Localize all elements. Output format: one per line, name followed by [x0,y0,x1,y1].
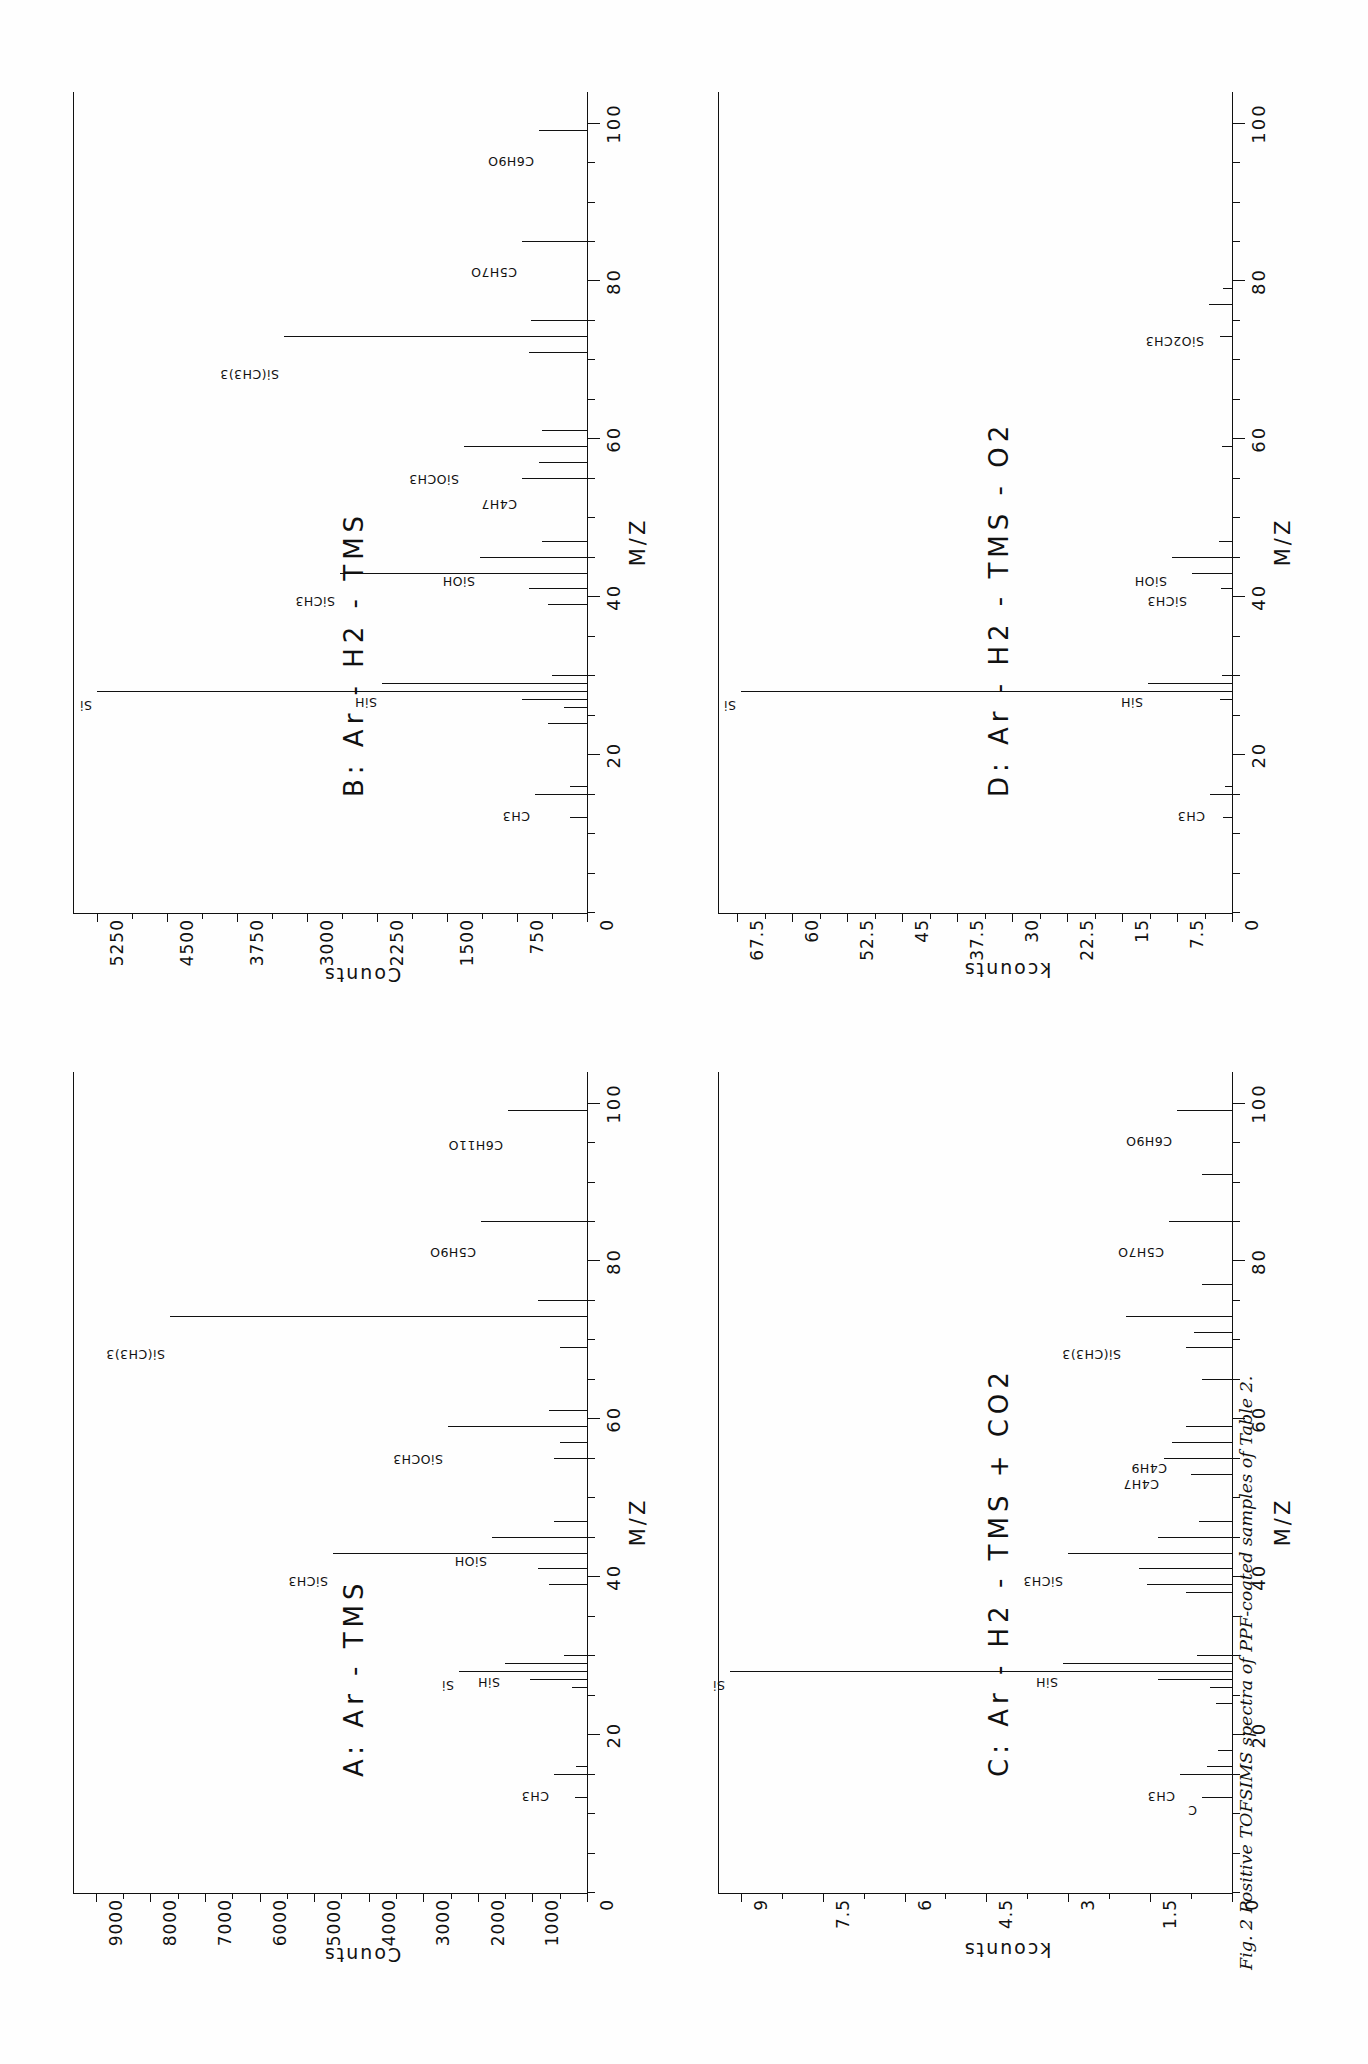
spectrum-peak [1209,304,1232,305]
y-minor-tick-mark [1205,913,1206,919]
spectrum-peak [492,1537,588,1538]
spectrum-peak [522,241,587,242]
y-tick-label: 3 [1078,1899,1098,1911]
x-tick-mark [1232,557,1240,558]
x-tick-mark [1232,280,1245,281]
y-minor-tick-mark [560,1893,561,1899]
y-tick-mark [314,1893,315,1902]
spectrum-peak [1221,588,1232,589]
panel-grid: CountsM/ZA: Ar - TMS01000200030004000500… [39,52,1329,2012]
y-minor-tick-mark [396,1893,397,1899]
x-tick-mark [1232,833,1240,834]
y-tick-label: 3000 [433,1899,453,1946]
x-tick-mark [587,675,595,676]
x-tick-mark [587,1260,600,1261]
spectrum-peak [1172,557,1232,558]
x-tick-mark [587,1339,595,1340]
x-tick-mark [1232,1260,1245,1261]
x-axis-label-b: M/Z [626,518,650,567]
x-tick-mark [1232,715,1240,716]
spectrum-peak [448,1426,587,1427]
spectrum-panel-a: CountsM/ZA: Ar - TMS01000200030004000500… [39,1032,684,2012]
y-minor-tick-mark [765,913,766,919]
plot-inner-c: 01.534.567.5920406080100CCH3SiSiHSiCH3C4… [719,1072,1232,1893]
peak-label: SiH [1120,695,1142,710]
plot-area-a: 0100020003000400050006000700080009000204… [73,1072,588,1894]
y-minor-tick-mark [864,1893,865,1899]
x-tick-mark [587,596,600,597]
rotated-figure-wrapper: CountsM/ZA: Ar - TMS01000200030004000500… [0,0,1368,2064]
y-minor-tick-mark [782,1893,783,1899]
x-tick-mark [587,794,595,795]
peak-label: CH3 [502,808,530,823]
x-tick-mark [587,1537,595,1538]
y-tick-label: 7.5 [833,1899,853,1929]
y-minor-tick-mark [342,913,343,919]
spectrum-peak [548,604,587,605]
y-tick-label: 52.5 [857,919,877,961]
spectrum-peak [564,707,587,708]
x-tick-label: 20 [603,742,624,769]
y-tick-mark [587,1893,588,1902]
x-tick-mark [587,438,600,439]
y-tick-mark [1122,913,1123,922]
spectrum-peak [1172,1442,1232,1443]
y-tick-mark [237,913,238,922]
x-tick-mark [587,715,595,716]
x-tick-mark [587,1418,600,1419]
x-tick-label: 80 [1248,1248,1269,1275]
four-panel-figure: CountsM/ZA: Ar - TMS01000200030004000500… [39,52,1329,2012]
peak-label: CH3 [1177,808,1205,823]
y-tick-label: 5250 [107,919,127,966]
y-minor-tick-mark [505,1893,506,1899]
y-tick-label: 3000 [317,919,337,966]
spectrum-peak [1222,446,1232,447]
x-tick-mark [587,280,600,281]
y-tick-label: 5000 [324,1899,344,1946]
y-minor-tick-mark [1150,913,1151,919]
y-axis-label-d: kcounts [962,959,1051,981]
y-tick-label: 6 [915,1899,935,1911]
y-tick-mark [423,1893,424,1902]
y-tick-mark [957,913,958,922]
x-tick-mark [1232,320,1240,321]
spectrum-peak [554,1458,587,1459]
y-tick-label: 30 [1022,919,1042,943]
spectrum-panel-d: kcountsM/ZD: Ar - H2 - TMS - O207.51522.… [684,52,1329,1032]
y-minor-tick-mark [945,1893,946,1899]
spectrum-peak [531,320,587,321]
spectrum-peak [535,794,587,795]
peak-label: C4H9 [1131,1461,1167,1476]
peak-label: SiOH [454,1554,487,1569]
x-tick-label: 60 [603,426,624,453]
plot-area-b: 075015002250300037504500525020406080100C… [73,92,588,914]
y-tick-mark [517,913,518,922]
x-tick-label: 80 [603,268,624,295]
y-tick-label: 0 [1242,919,1262,931]
y-minor-tick-mark [287,1893,288,1899]
x-tick-mark [1232,478,1240,479]
y-minor-tick-mark [482,913,483,919]
peak-label: CH3 [1148,1788,1176,1803]
y-axis-label-c: kcounts [962,1939,1051,1961]
y-tick-label: 7000 [215,1899,235,1946]
spectrum-peak [564,1655,587,1656]
plot-inner-b: 075015002250300037504500525020406080100C… [74,92,587,913]
y-tick-label: 37.5 [967,919,987,961]
y-minor-tick-mark [341,1893,342,1899]
x-tick-label: 40 [1248,584,1269,611]
spectrum-peak [542,430,587,431]
y-minor-tick-mark [930,913,931,919]
y-tick-mark [369,1893,370,1902]
y-tick-label: 9000 [106,1899,126,1946]
spectrum-peak [554,1774,587,1775]
y-tick-mark [478,1893,479,1902]
peak-label: Si(CH3)3 [220,366,279,381]
y-minor-tick-mark [232,1893,233,1899]
x-tick-mark [1232,1103,1245,1104]
y-minor-tick-mark [202,913,203,919]
x-tick-mark [587,1774,595,1775]
y-tick-mark [532,1893,533,1902]
spectrum-peak [1202,1284,1232,1285]
x-tick-label: 80 [603,1248,624,1275]
